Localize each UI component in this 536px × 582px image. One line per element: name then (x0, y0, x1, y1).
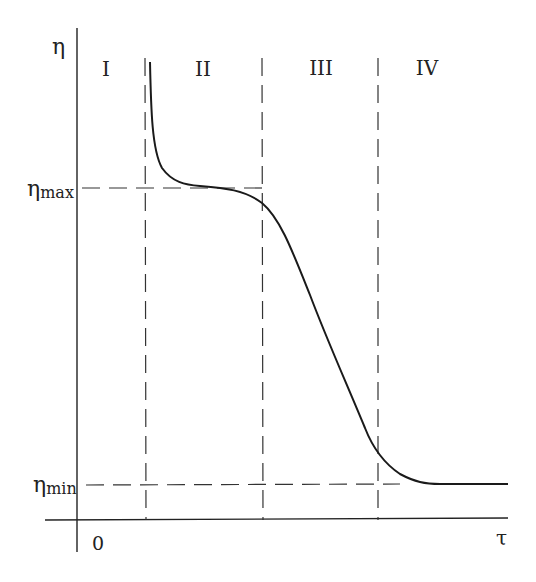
eta-min-line (86, 484, 400, 485)
origin-label: 0 (92, 532, 104, 554)
x-axis (45, 518, 508, 520)
region-label-4: IV (416, 56, 439, 80)
x-axis-label: τ (496, 526, 507, 550)
chart: η τ 0 ηmax ηmin I II III IV (0, 0, 536, 582)
region-label-2: II (195, 57, 211, 81)
region-label-1: I (102, 57, 110, 81)
reference-lines (82, 188, 400, 485)
y-axis-label: η (52, 34, 65, 59)
viscosity-curve (150, 62, 508, 484)
eta-max-label: ηmax (27, 176, 74, 202)
region-boundaries (145, 58, 378, 520)
region-label-3: III (309, 56, 333, 80)
eta-min-label: ηmin (33, 472, 77, 498)
